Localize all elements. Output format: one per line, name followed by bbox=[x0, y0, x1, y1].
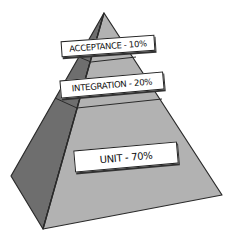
pyramid-shape bbox=[0, 0, 233, 238]
test-pyramid-diagram: ACCEPTANCE - 10% INTEGRATION - 20% UNIT … bbox=[0, 0, 233, 238]
